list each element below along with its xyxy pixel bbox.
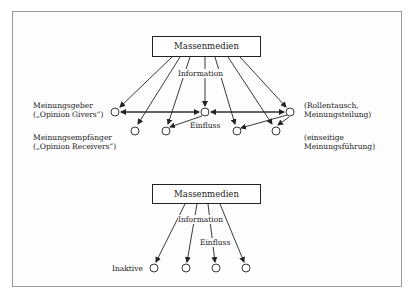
opinion-receivers-label-line1: Meinungsempfänger	[33, 133, 112, 142]
arrow-media-to-inactive-3	[208, 204, 215, 262]
arrow-media-to-giver-right	[240, 57, 286, 107]
opinion-givers-label-line1: Meinungsgeber	[33, 101, 93, 110]
node-opinion-giver-left	[111, 108, 119, 116]
arrow-media-to-inactive-4	[220, 204, 244, 262]
arrow-media-to-receiver-4	[228, 57, 272, 124]
node-opinion-receiver-4	[272, 127, 280, 135]
node-opinion-giver-right	[286, 108, 294, 116]
node-opinion-receiver-2	[162, 127, 170, 135]
arrow-influence-right-to-receiver-3	[241, 115, 287, 128]
arrow-media-to-receiver-3	[215, 57, 235, 124]
node-inactive-1	[150, 264, 158, 272]
arrow-media-to-inactive-1	[156, 204, 185, 262]
media-box-bottom: Massenmedien	[152, 184, 261, 204]
node-opinion-receiver-1	[131, 127, 139, 135]
arrow-media-to-receiver-2	[168, 57, 190, 124]
node-inactive-4	[242, 264, 250, 272]
node-opinion-giver-center	[201, 108, 209, 116]
arrow-influence-right-to-receiver-4	[278, 117, 289, 125]
role-exchange-label-line2: Meinungsteilung)	[304, 110, 371, 119]
opinion-receivers-label-line2: („Opinion Receivers“)	[33, 142, 116, 151]
media-box-top: Massenmedien	[152, 36, 261, 57]
arrow-media-to-receiver-1	[138, 57, 180, 124]
inactive-label: Inaktive	[112, 264, 143, 273]
influence-label-top: Einfluss	[190, 121, 220, 130]
node-opinion-receiver-3	[233, 127, 241, 135]
influence-label-bottom: Einfluss	[200, 238, 230, 247]
information-label-bottom: Information	[178, 215, 223, 224]
one-sided-label-line2: Meinungsführung)	[304, 142, 375, 151]
opinion-givers-label-line2: („Opinion Givers“)	[33, 110, 103, 119]
node-inactive-3	[212, 264, 220, 272]
node-inactive-2	[182, 264, 190, 272]
role-exchange-label-line1: (Rollentausch,	[304, 101, 359, 110]
arrow-media-to-inactive-2	[187, 204, 197, 262]
information-label-top: Information	[178, 69, 223, 78]
one-sided-label-line1: (einseitige	[304, 133, 344, 142]
